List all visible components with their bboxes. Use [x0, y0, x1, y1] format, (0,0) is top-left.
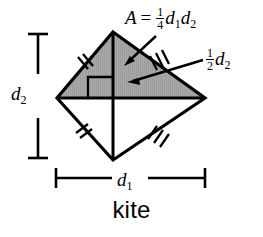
half-d2-label: 1 2 d2 [205, 47, 231, 72]
area-formula-label: A= 1 4 d1d2 [125, 6, 196, 31]
d1-variable: d [165, 7, 175, 28]
d-subscript: 2 [21, 93, 27, 107]
dimension-line-d2 [28, 34, 48, 158]
d2-variable: d [181, 7, 191, 28]
fraction-numerator: 1 [156, 6, 164, 18]
equals-sign: = [141, 7, 152, 28]
d-subscript: 1 [127, 179, 133, 193]
fraction-denominator: 2 [206, 59, 214, 72]
area-variable: A [125, 7, 137, 28]
d-variable: d [215, 48, 225, 69]
d2-subscript: 2 [190, 17, 196, 31]
figure-caption: kite [0, 198, 263, 222]
diagonal-2-label: d2 [11, 84, 27, 106]
one-fourth-fraction: 1 4 [156, 6, 164, 31]
fraction-numerator: 1 [206, 47, 214, 59]
diagonal-1-label: d1 [117, 170, 133, 192]
one-half-fraction: 1 2 [206, 47, 214, 72]
d-variable: d [117, 169, 127, 190]
d-variable: d [11, 83, 21, 104]
fraction-denominator: 4 [156, 18, 164, 31]
d-subscript: 2 [225, 58, 231, 72]
